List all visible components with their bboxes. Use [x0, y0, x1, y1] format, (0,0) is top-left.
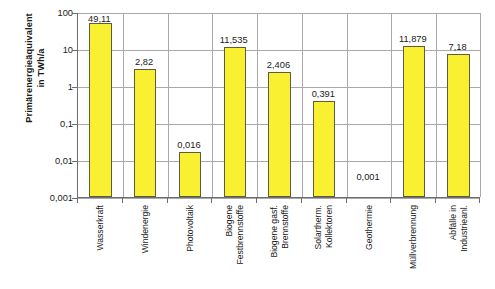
x-axis-category-label: Abfälle inIndustrieanl. — [448, 205, 461, 289]
y-axis-title-line-1: Primärenergieäquivalent — [23, 13, 35, 123]
gridline-vertical — [257, 13, 258, 197]
gridline-vertical — [480, 13, 481, 197]
y-axis-tick-label: 0,001 — [13, 193, 73, 203]
x-axis-category-label: Müllverbrennung — [408, 205, 421, 289]
x-axis-category-label: Geothermie — [364, 205, 377, 289]
gridline-horizontal — [78, 198, 480, 199]
x-axis-tick-mark — [346, 198, 347, 203]
x-axis-tick-mark — [256, 198, 257, 203]
x-axis-category-label: Photovoltaik — [185, 205, 198, 289]
gridline-vertical — [391, 13, 392, 197]
x-axis-category-label-line: Kollektoren — [324, 205, 335, 289]
bar-value-label: 2,82 — [135, 57, 153, 67]
x-axis-tick-mark — [479, 198, 480, 203]
x-axis-category-label-line: Abfälle in — [448, 205, 459, 289]
x-axis-category-label: Windenergie — [140, 205, 153, 289]
x-axis-category-label: Solartherm.Kollektoren — [313, 205, 326, 289]
x-axis-tick-mark — [211, 198, 212, 203]
bar — [89, 23, 111, 197]
y-axis-tick-label: 1 — [13, 82, 73, 92]
x-axis-category-label-line: Festbrennstoffe — [234, 205, 245, 289]
bar — [179, 152, 201, 197]
x-axis-category-label-line: Biogene — [224, 205, 235, 289]
x-axis-tick-mark — [77, 198, 78, 203]
x-axis-tick-mark — [435, 198, 436, 203]
x-axis-category-label-line: Wasserkraft — [95, 205, 106, 289]
x-axis-tick-mark — [122, 198, 123, 203]
x-axis-tick-mark — [390, 198, 391, 203]
y-axis-tick-label: 100 — [13, 8, 73, 18]
bar-value-label: 11,535 — [220, 35, 248, 45]
bar — [313, 101, 335, 197]
x-axis-category-label-line: Brennstoffe — [279, 205, 290, 289]
bar-value-label: 2,406 — [267, 60, 290, 70]
bar-value-label: 0,016 — [177, 140, 200, 150]
gridline-vertical — [212, 13, 213, 197]
x-axis-category-label-line: Geothermie — [364, 205, 375, 289]
y-axis-tick-label: 10 — [13, 45, 73, 55]
x-axis-category-label-line: Photovoltaik — [185, 205, 196, 289]
bar — [134, 69, 156, 197]
bar — [268, 72, 290, 197]
x-axis-tick-mark — [167, 198, 168, 203]
gridline-vertical — [302, 13, 303, 197]
x-axis-tick-mark — [301, 198, 302, 203]
bar-value-label: 7,18 — [449, 42, 467, 52]
gridline-vertical — [347, 13, 348, 197]
bar-value-label: 0,001 — [356, 172, 379, 182]
x-axis-category-label-line: Solartherm. — [313, 205, 324, 289]
bar-value-label: 0,391 — [312, 89, 335, 99]
x-axis-category-label-line: Müllverbrennung — [408, 205, 419, 289]
x-axis-category-label: Wasserkraft — [95, 205, 108, 289]
gridline-vertical — [123, 13, 124, 197]
bar-value-label: 49,11 — [88, 14, 111, 24]
y-axis-tick-label: 0,1 — [13, 119, 73, 129]
bar — [403, 46, 425, 197]
x-axis-category-label-line: Windenergie — [140, 205, 151, 289]
bar-value-label: 11,879 — [399, 34, 427, 44]
gridline-horizontal — [78, 13, 480, 14]
x-axis-category-label-line: Industrieanl. — [458, 205, 469, 289]
gridline-vertical — [436, 13, 437, 197]
bar-chart: Primärenergieäquivalent in TWh/a 1001010… — [0, 0, 495, 289]
y-axis-tick-label: 0,01 — [13, 156, 73, 166]
x-axis-category-label-line: Biogene gasf. — [269, 205, 280, 289]
gridline-vertical — [168, 13, 169, 197]
x-axis-category-label: Biogene gasf.Brennstoffe — [269, 205, 282, 289]
bar — [224, 47, 246, 197]
bar — [447, 54, 469, 197]
x-axis-category-label: BiogeneFestbrennstoffe — [224, 205, 237, 289]
